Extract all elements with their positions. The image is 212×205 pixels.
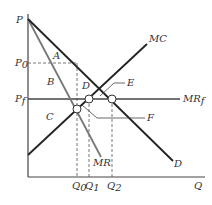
x-axis-label: Q	[194, 180, 202, 191]
mrf-curve-label: MRf	[182, 93, 207, 106]
p0-label: P0	[14, 57, 29, 70]
pf-label: Pf	[14, 93, 28, 106]
q2-label: Q2	[107, 180, 122, 193]
intersection-q1-marker	[85, 95, 93, 103]
area-f-label: F	[146, 112, 155, 123]
area-d-label: D	[81, 80, 90, 91]
demand-curve-label: D	[173, 158, 182, 169]
area-c-label: C	[46, 111, 54, 122]
y-axis-label: P	[15, 14, 23, 25]
intersection-q0-marker	[73, 105, 81, 113]
mr-line	[28, 19, 101, 157]
area-a-label: A	[52, 50, 60, 61]
f-leader-line	[82, 105, 145, 118]
area-b-label: B	[46, 76, 54, 87]
intersection-q2-marker	[108, 95, 116, 103]
q1-label: Q1	[85, 180, 100, 193]
mc-curve-label: MC	[148, 33, 167, 44]
economics-diagram: P Q P0 Pf Q0 Q1 Q2 MC MRf MR D A B C D E…	[0, 0, 212, 205]
mr-curve-label: MR	[92, 157, 111, 168]
area-e-label: E	[126, 77, 135, 88]
